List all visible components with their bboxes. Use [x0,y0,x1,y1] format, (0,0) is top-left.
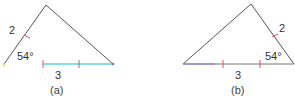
tick-mark [24,35,30,38]
base-length-label: 3 [55,69,61,81]
side-length-label: 2 [9,24,15,36]
long-side-line [46,5,113,64]
figure-caption: (a) [50,84,63,96]
angle-label: 54° [265,50,282,62]
angle-label: 54° [17,50,34,62]
side-length-label: 2 [279,22,285,34]
triangle-diagram: 2 54° 3 (a) 2 54° 3 (b) [0,0,295,105]
vertex-marker [112,63,115,66]
figure-a: 2 54° 3 (a) [3,5,115,96]
base-length-label: 3 [235,69,241,81]
vertex-marker [3,64,6,67]
figure-b: 2 54° 3 (b) [183,4,294,96]
long-side-line [183,4,251,64]
figure-caption: (b) [231,84,244,96]
